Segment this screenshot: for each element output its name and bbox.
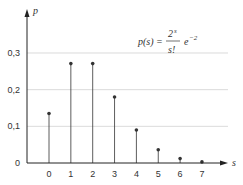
data-point	[113, 95, 117, 99]
y-tick-label: 0,1	[7, 121, 20, 131]
y-tick-label: 0,2	[7, 85, 20, 95]
chart: 00,10,20,3 01234567 p s p(s) = 2 s s! e …	[0, 0, 243, 185]
data-point	[178, 157, 182, 161]
x-tick-label: 0	[46, 169, 51, 179]
x-tick-label: 2	[90, 169, 95, 179]
x-tick-label: 3	[112, 169, 117, 179]
x-axis-arrow-icon	[220, 161, 228, 166]
formula-numerator: 2	[168, 28, 173, 39]
y-axis-label: p	[32, 5, 38, 16]
x-axis-ticks: 01234567	[46, 169, 204, 179]
data-point	[91, 62, 95, 66]
data-point	[69, 62, 73, 66]
data-stems	[47, 62, 204, 164]
formula-denominator: s!	[168, 44, 175, 55]
gridlines	[27, 53, 228, 126]
formula-lhs: p(s) =	[137, 36, 163, 48]
data-point	[47, 112, 51, 116]
formula-annotation: p(s) = 2 s s! e −2	[137, 27, 198, 55]
formula-numerator-exp: s	[174, 27, 177, 35]
y-axis-arrow-icon	[25, 9, 30, 17]
x-tick-label: 4	[134, 169, 139, 179]
y-tick-label: 0	[15, 158, 20, 168]
x-tick-label: 7	[199, 169, 204, 179]
data-point	[156, 148, 160, 152]
y-tick-label: 0,3	[7, 48, 20, 58]
y-axis-ticks: 00,10,20,3	[7, 48, 20, 168]
data-point	[135, 128, 139, 132]
x-axis-label: s	[232, 157, 236, 168]
x-tick-label: 5	[156, 169, 161, 179]
formula-factor-exp: −2	[189, 34, 198, 42]
x-tick-label: 1	[68, 169, 73, 179]
x-tick-label: 6	[178, 169, 183, 179]
